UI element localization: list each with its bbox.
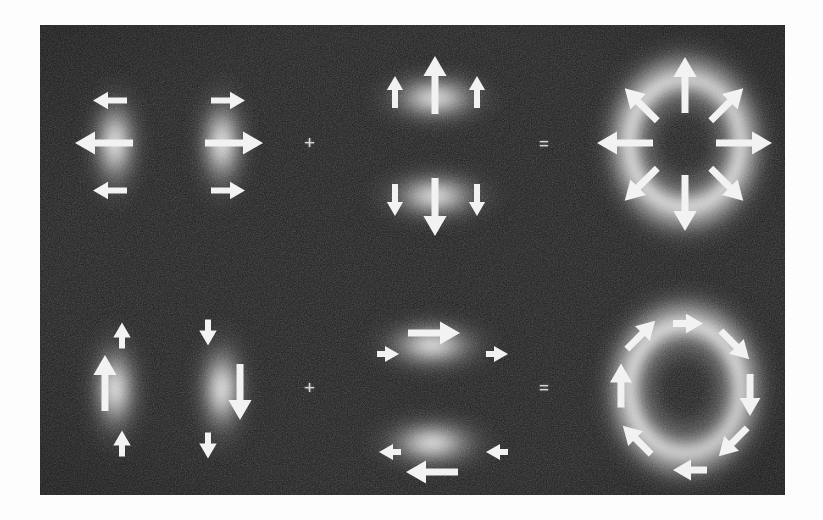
term-3-radial-donut-arrow-w <box>591 127 659 159</box>
photographic-plate: +=+= <box>40 25 785 495</box>
term-3-radial-donut-arrow-s <box>669 169 701 237</box>
term-5-hg10-x-arrow-bottom-left <box>373 439 407 465</box>
term-3-radial-donut-arrow-ne <box>696 73 759 136</box>
term-6-azimuthal-donut-arrow-sw <box>608 411 666 469</box>
term-3-radial-donut-arrow-n <box>669 51 701 119</box>
term-1-hg01-x-lobe-right <box>186 71 258 215</box>
film-grain-overlay <box>40 25 785 495</box>
term-6-azimuthal-donut-arrow-w <box>606 357 637 413</box>
term-6-azimuthal-donut-arrow-ne <box>706 316 764 374</box>
term-2-hg10-y-arrow-top-right <box>464 70 490 114</box>
term-5-hg10-x-lobe-top <box>360 309 504 381</box>
term-5-hg10-x-arrow-top-left <box>371 341 405 367</box>
operator-plus-bottom: + <box>304 378 315 397</box>
term-1-hg01-x-arrow-left-top <box>87 87 133 114</box>
term-5-hg10-x-arrow-top-center <box>402 317 466 349</box>
term-1-hg01-x-lobe-left <box>79 71 151 215</box>
operator-plus-top: + <box>304 133 315 152</box>
term-6-azimuthal-donut-arrow-n <box>667 309 709 338</box>
term-5-hg10-x-arrow-bottom-right <box>480 439 514 465</box>
term-2-hg10-y-arrow-bottom-left <box>382 178 408 222</box>
term-6-azimuthal-donut-donut <box>590 279 780 495</box>
term-2-hg10-y-arrow-top-left <box>382 70 408 114</box>
term-4-hg01-y-lobe-right <box>186 317 258 461</box>
term-4-hg01-y-arrow-left-middle <box>89 349 121 417</box>
term-1-hg01-x-arrow-right-bottom <box>205 177 251 204</box>
vignette-overlay <box>40 25 785 495</box>
term-3-radial-donut-donut <box>590 33 780 253</box>
term-2-hg10-y-lobe-top <box>363 62 507 134</box>
term-6-azimuthal-donut-arrow-e <box>735 368 765 422</box>
term-3-radial-donut-arrow-sw <box>610 153 673 216</box>
term-4-hg01-y-lobe-left <box>79 317 151 461</box>
term-4-hg01-y-arrow-left-bottom <box>109 424 136 462</box>
term-5-hg10-x-arrow-top-right <box>480 341 514 367</box>
term-2-hg10-y-arrow-bottom-center <box>419 172 451 242</box>
term-2-hg10-y-arrow-top-center <box>419 50 451 120</box>
term-1-hg01-x-arrow-right-top <box>205 87 251 114</box>
term-3-radial-donut-arrow-se <box>696 153 759 216</box>
term-4-hg01-y-arrow-left-top <box>109 316 136 354</box>
term-4-hg01-y-arrow-right-middle <box>224 358 256 426</box>
term-5-hg10-x-lobe-bottom <box>360 407 504 479</box>
term-1-hg01-x-arrow-left-middle <box>69 127 139 159</box>
term-4-hg01-y-arrow-right-bottom <box>195 426 222 464</box>
term-6-azimuthal-donut-arrow-nw <box>612 306 670 364</box>
operator-equals-top: = <box>539 135 549 152</box>
term-1-hg01-x-arrow-right-middle <box>199 127 269 159</box>
operator-equals-bottom: = <box>539 379 549 396</box>
term-2-hg10-y-lobe-bottom <box>363 160 507 232</box>
figure-root: +=+= <box>0 0 823 520</box>
term-1-hg01-x-arrow-left-bottom <box>87 177 133 204</box>
term-2-hg10-y-arrow-bottom-right <box>464 178 490 222</box>
term-3-radial-donut-arrow-nw <box>610 73 673 136</box>
term-3-radial-donut-arrow-e <box>710 127 778 159</box>
term-4-hg01-y-arrow-right-top <box>195 313 222 351</box>
term-6-azimuthal-donut-arrow-s <box>667 455 713 485</box>
term-5-hg10-x-arrow-bottom-center <box>400 456 464 488</box>
term-6-azimuthal-donut-arrow-se <box>704 413 762 471</box>
